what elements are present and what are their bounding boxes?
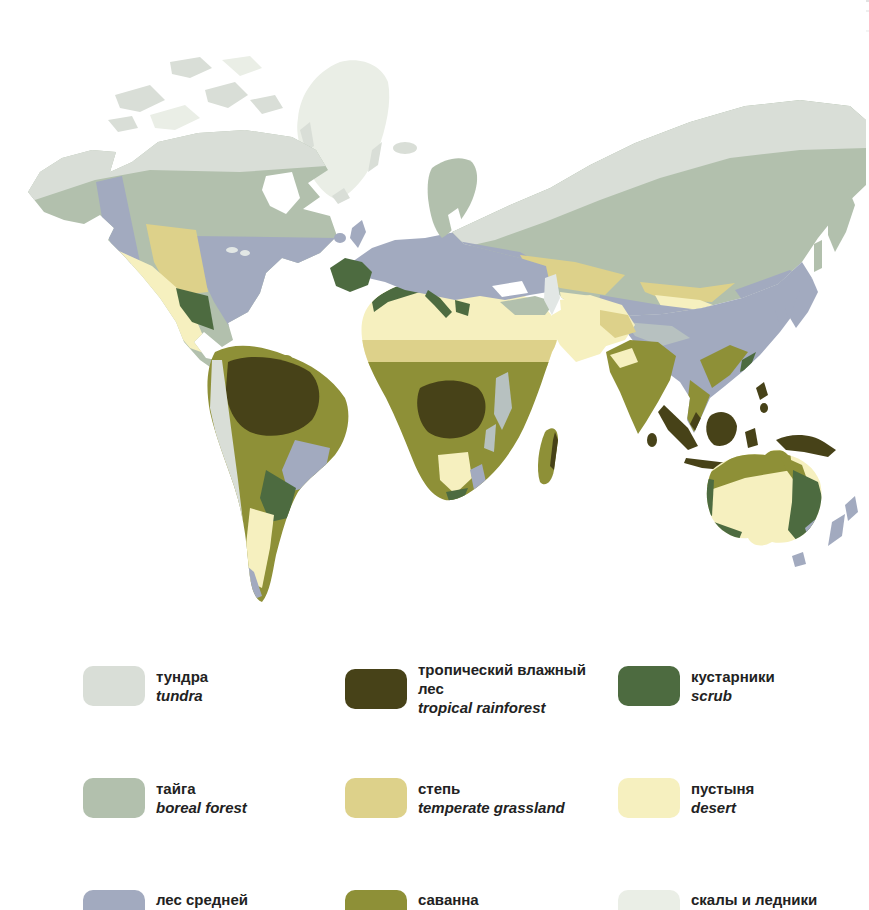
legend-swatch-tropical-rainforest: [345, 669, 407, 709]
legend-label-ru: саванна: [418, 890, 479, 909]
legend-swatch-desert: [618, 778, 680, 818]
legend-item-savanna: саванна: [345, 890, 479, 910]
page: тундра tundra тропический влажный лес tr…: [0, 0, 869, 910]
legend-swatch-steppe: [345, 778, 407, 818]
legend-swatch-rocks-glaciers: [618, 890, 680, 910]
legend-item-scrub: кустарники scrub: [618, 666, 775, 706]
legend-label-ru: тайга: [156, 779, 247, 798]
legend-label-en: temperate grassland: [418, 798, 565, 817]
legend-swatch-scrub: [618, 666, 680, 706]
legend-item-rocks-glaciers: скалы и ледники: [618, 890, 817, 910]
legend-label-en: tropical rainforest: [418, 698, 586, 717]
legend-swatch-tundra: [83, 666, 145, 706]
legend-label-ru: скалы и ледники: [691, 890, 817, 909]
legend-label-ru: кустарники: [691, 667, 775, 686]
legend-label-ru: лес средней: [156, 890, 248, 909]
legend-swatch-savanna: [345, 890, 407, 910]
legend-swatch-temperate-forest: [83, 890, 145, 910]
legend-label-en: boreal forest: [156, 798, 247, 817]
legend-item-steppe: степь temperate grassland: [345, 778, 565, 818]
legend-label-en: tundra: [156, 686, 208, 705]
legend-item-temperate-forest: лес средней: [83, 890, 248, 910]
legend-label-ru: тундра: [156, 667, 208, 686]
legend-item-tundra: тундра tundra: [83, 666, 208, 706]
legend-label-ru: пустыня: [691, 779, 754, 798]
map-legend: тундра tundra тропический влажный лес tr…: [0, 0, 869, 910]
legend-label-en: scrub: [691, 686, 775, 705]
legend-item-taiga: тайга boreal forest: [83, 778, 247, 818]
legend-item-tropical-rainforest: тропический влажный лес tropical rainfor…: [345, 660, 586, 717]
legend-label-ru: тропический влажный лес: [418, 660, 586, 698]
legend-label-en: desert: [691, 798, 754, 817]
legend-item-desert: пустыня desert: [618, 778, 754, 818]
legend-label-ru: степь: [418, 779, 565, 798]
legend-swatch-taiga: [83, 778, 145, 818]
